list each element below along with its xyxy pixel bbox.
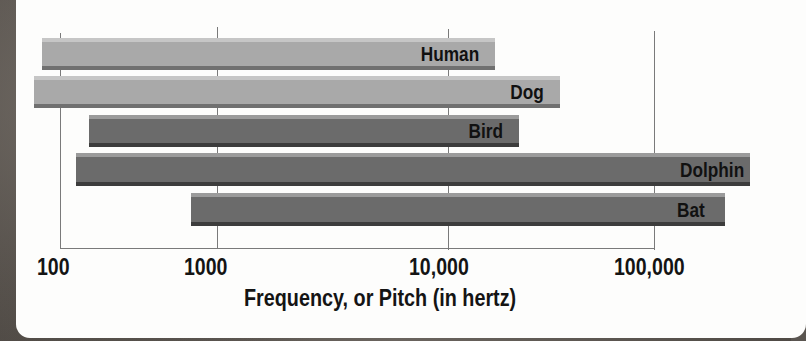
bar-label-human: Human xyxy=(421,42,479,66)
bar-dog: Dog xyxy=(34,76,560,108)
bar-label-bat: Bat xyxy=(677,198,705,222)
bar-label-bird: Bird xyxy=(469,119,503,143)
bar-label-dog: Dog xyxy=(511,80,544,104)
bar-label-dolphin: Dolphin xyxy=(680,158,744,182)
bar-bird: Bird xyxy=(89,115,519,147)
bar-dolphin: Dolphin xyxy=(76,153,750,186)
tick-label-100: 100 xyxy=(37,254,70,281)
tick-label-100000: 100,000 xyxy=(614,254,685,281)
tick-label-1000: 1000 xyxy=(184,254,227,281)
bar-human: Human xyxy=(42,38,495,70)
x-axis-title: Frequency, or Pitch (in hertz) xyxy=(244,285,516,312)
tick-label-10000: 10,000 xyxy=(409,254,469,281)
bar-bat: Bat xyxy=(191,193,725,226)
x-axis-line xyxy=(60,248,655,249)
